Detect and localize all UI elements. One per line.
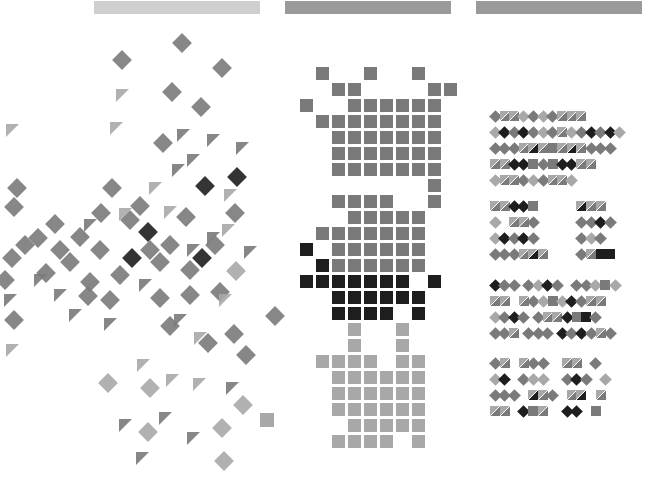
square-glyph (444, 83, 457, 96)
square-glyph (348, 83, 361, 96)
diamond-glyph (138, 222, 158, 242)
square-glyph (332, 227, 345, 240)
square-glyph (364, 99, 377, 112)
split-square-glyph (490, 406, 500, 416)
square-glyph (412, 67, 425, 80)
split-square-glyph (576, 390, 586, 400)
square-glyph (428, 163, 441, 176)
diamond-glyph (226, 261, 246, 281)
square-glyph (364, 67, 377, 80)
square-glyph (364, 211, 377, 224)
triangle-glyph (244, 246, 257, 259)
square-glyph (364, 243, 377, 256)
triangle-glyph (136, 452, 149, 465)
triangle-glyph (84, 219, 97, 232)
triangle-glyph (6, 124, 19, 137)
triangle-glyph (110, 122, 123, 135)
diamond-glyph (100, 290, 120, 310)
square-glyph (332, 163, 345, 176)
square-glyph (412, 419, 425, 432)
square-glyph (348, 371, 361, 384)
square-glyph (300, 99, 313, 112)
square-glyph (348, 163, 361, 176)
square-glyph (396, 355, 409, 368)
square-glyph (348, 323, 361, 336)
square-glyph (332, 435, 345, 448)
square-glyph (364, 371, 377, 384)
diamond-glyph (102, 178, 122, 198)
square-glyph (300, 243, 313, 256)
square-glyph (348, 387, 361, 400)
square-glyph (380, 403, 393, 416)
diamond-glyph (537, 373, 550, 386)
square-glyph (412, 259, 425, 272)
triangle-glyph (226, 382, 239, 395)
triangle-glyph (119, 419, 132, 432)
square-glyph (380, 115, 393, 128)
diamond-glyph (212, 58, 232, 78)
square-glyph (348, 275, 361, 288)
square-glyph (396, 387, 409, 400)
diamond-glyph (45, 214, 65, 234)
split-square-glyph (500, 175, 510, 185)
split-square-glyph (557, 143, 567, 153)
square-glyph (348, 147, 361, 160)
split-square-glyph (500, 296, 510, 306)
diamond-glyph (570, 405, 583, 418)
split-square-glyph (543, 312, 553, 322)
split-square-glyph (567, 390, 577, 400)
split-square-glyph (586, 201, 596, 211)
square-glyph (364, 147, 377, 160)
square-glyph (348, 243, 361, 256)
square-grid-panel (285, 0, 465, 482)
diamond-glyph (236, 345, 256, 365)
square-glyph (396, 403, 409, 416)
square-glyph (348, 435, 361, 448)
diamond-glyph (110, 265, 130, 285)
diamond-glyph (112, 50, 132, 70)
square-glyph (396, 163, 409, 176)
diamond-glyph (508, 389, 521, 402)
triangle-glyph (149, 182, 162, 195)
square-glyph (412, 371, 425, 384)
square-glyph (348, 259, 361, 272)
square-glyph (380, 291, 393, 304)
diamond-glyph (537, 357, 550, 370)
triangle-glyph (4, 294, 17, 307)
diamond-glyph (214, 451, 234, 471)
split-square-glyph (576, 159, 586, 169)
diamond-glyph (233, 395, 253, 415)
split-square-glyph (500, 111, 510, 121)
diamond-glyph (594, 232, 607, 245)
square-glyph (316, 227, 329, 240)
triangle-glyph (177, 129, 190, 142)
square-glyph (396, 99, 409, 112)
square-glyph (591, 406, 601, 416)
square-glyph (380, 99, 393, 112)
triangle-glyph (187, 432, 200, 445)
diamond-glyph (176, 207, 196, 227)
square-glyph (412, 211, 425, 224)
split-square-glyph (538, 406, 548, 416)
square-glyph (380, 163, 393, 176)
square-glyph (380, 211, 393, 224)
split-square-glyph (567, 143, 577, 153)
triangle-glyph (139, 279, 152, 292)
diamond-glyph (527, 232, 540, 245)
triangle-glyph (69, 309, 82, 322)
square-glyph (428, 147, 441, 160)
square-glyph (364, 195, 377, 208)
grouped-glyph-panel (470, 0, 650, 482)
triangle-glyph (119, 208, 132, 221)
square-glyph (260, 413, 274, 427)
split-square-glyph (490, 201, 500, 211)
square-glyph (332, 403, 345, 416)
split-square-glyph (538, 143, 548, 153)
square-glyph (396, 243, 409, 256)
square-glyph (380, 371, 393, 384)
split-square-glyph (500, 406, 510, 416)
square-glyph (412, 307, 425, 320)
triangle-glyph (6, 344, 19, 357)
square-glyph (316, 275, 329, 288)
square-glyph (364, 419, 377, 432)
